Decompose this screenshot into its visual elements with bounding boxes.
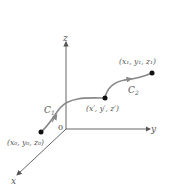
path-diagram: z y x 0 C1 C2 (x₀, y₀, z₀) (x′, y′, z′) … xyxy=(0,0,172,190)
mid-point-label: (x′, y′, z′) xyxy=(86,104,119,113)
start-point xyxy=(39,130,44,135)
x-axis-label: x xyxy=(11,176,16,186)
y-axis-label: y xyxy=(150,124,157,134)
start-point-label: (x₀, y₀, z₀) xyxy=(7,138,44,147)
c2-label: C2 xyxy=(128,85,139,96)
end-point-label: (x₁, y₁, z₁) xyxy=(119,57,156,66)
c1-label: C1 xyxy=(44,105,55,116)
z-axis-label: z xyxy=(62,33,68,43)
x-axis xyxy=(17,129,66,175)
mid-point xyxy=(103,96,108,101)
origin-label: 0 xyxy=(58,123,63,132)
end-point xyxy=(150,71,155,76)
